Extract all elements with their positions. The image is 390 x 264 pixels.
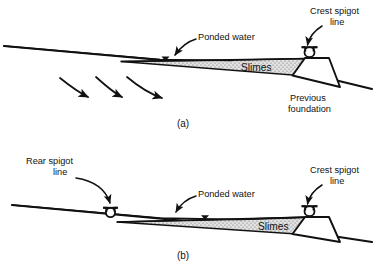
crest-spigot-icon-b	[302, 206, 318, 216]
crest-spigot-icon-a	[302, 47, 318, 57]
ponded-water-label-b: Ponded water	[198, 189, 255, 199]
crest-spigot-leader-a	[308, 26, 323, 45]
ponded-water-leader-a	[175, 39, 196, 55]
slimes-label-a: Slimes	[241, 62, 272, 73]
crest-spigot-label-a-line2: line	[330, 17, 344, 27]
crest-spigot-leader-b	[308, 185, 323, 204]
diagram-panel-b: Rear spigot line Ponded water Crest spig…	[0, 132, 390, 264]
flow-arrow-1	[60, 78, 88, 97]
rear-spigot-label-b-line1: Rear spigot	[26, 156, 73, 166]
panel-caption-b: (b)	[177, 250, 189, 261]
ponded-water-surface-b	[12, 205, 305, 219]
previous-foundation-label-a-line2: foundation	[288, 104, 331, 114]
rear-spigot-label-b-line2: line	[53, 167, 67, 177]
crest-spigot-label-a-line1: Crest spigot	[310, 6, 359, 16]
diagram-panel-a: Crest spigot line Ponded water Slimes Pr…	[0, 0, 390, 132]
flow-arrow-3	[127, 77, 162, 98]
panel-caption-a: (a)	[177, 118, 189, 129]
crest-spigot-label-b-line1: Crest spigot	[310, 165, 359, 175]
crest-spigot-label-b-line2: line	[330, 176, 344, 186]
flow-arrow-2	[96, 77, 122, 97]
flow-arrows-a	[60, 77, 162, 98]
slimes-label-b: Slimes	[258, 221, 289, 232]
ponded-water-leader-b	[176, 196, 196, 212]
rear-spigot-leader-b	[76, 178, 110, 203]
previous-foundation-label-a-line1: Previous	[290, 93, 326, 103]
rear-spigot-icon-b	[103, 208, 118, 217]
ponded-water-label-a: Ponded water	[198, 32, 255, 42]
tailings-dam-figure: Crest spigot line Ponded water Slimes Pr…	[0, 0, 390, 264]
